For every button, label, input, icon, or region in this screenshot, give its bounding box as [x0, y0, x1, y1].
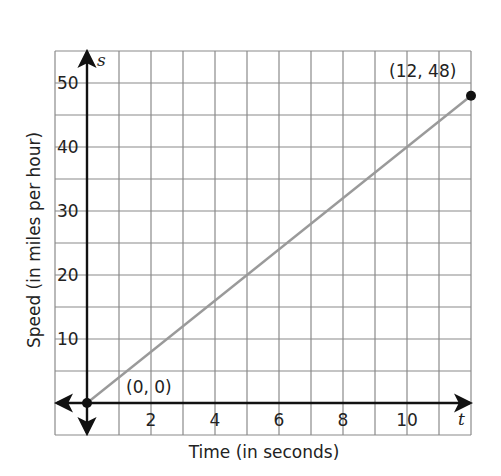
- y-variable-label: s: [97, 50, 106, 70]
- x-tick-label: 6: [274, 410, 285, 430]
- y-tick-label: 50: [57, 73, 79, 93]
- x-tick-label: 8: [338, 410, 349, 430]
- x-variable-label: t: [458, 409, 465, 429]
- y-tick-label: 10: [57, 329, 79, 349]
- x-tick-label: 4: [210, 410, 221, 430]
- end-point-label: (12, 48): [389, 61, 456, 81]
- y-tick-label: 40: [57, 137, 79, 157]
- y-tick-label: 20: [57, 265, 79, 285]
- y-tick-label: 30: [57, 201, 79, 221]
- speed-time-chart: 246810 1020304050 s t (0, 0) (12, 48) Ti…: [0, 0, 501, 476]
- y-axis-title: Speed (in miles per hour): [24, 132, 44, 348]
- x-tick-label: 10: [396, 410, 418, 430]
- x-tick-label: 2: [146, 410, 157, 430]
- x-axis-title: Time (in seconds): [188, 442, 340, 462]
- x-tick-labels: 246810: [146, 410, 418, 430]
- end-point: [466, 91, 476, 101]
- origin-point: [82, 398, 92, 408]
- origin-point-label: (0, 0): [126, 377, 172, 397]
